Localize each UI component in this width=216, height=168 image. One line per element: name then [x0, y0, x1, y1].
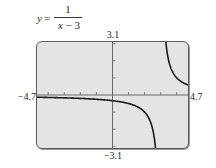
- equation-lhs: y=: [37, 12, 50, 24]
- ymin-label: −3.1: [102, 150, 124, 161]
- right-branch-curve: [166, 42, 188, 85]
- equation-numerator: 1: [54, 3, 82, 15]
- axes: [37, 42, 188, 148]
- ymax-label: 3.1: [104, 29, 122, 40]
- equation-equals-sign: =: [44, 12, 50, 24]
- equation-y-variable: y: [37, 12, 42, 24]
- left-branch-curve: [37, 97, 156, 148]
- graphing-calculator-screen: [36, 41, 189, 149]
- plot-area: [37, 42, 188, 148]
- fraction-bar: [54, 17, 82, 18]
- equation-denominator-constant: − 3: [63, 19, 80, 31]
- xmax-label: 4.7: [190, 91, 212, 102]
- function-equation: y= 1 x − 3: [36, 3, 96, 31]
- equation-denominator: x − 3: [54, 19, 84, 31]
- xmin-label: −4.7: [10, 91, 36, 102]
